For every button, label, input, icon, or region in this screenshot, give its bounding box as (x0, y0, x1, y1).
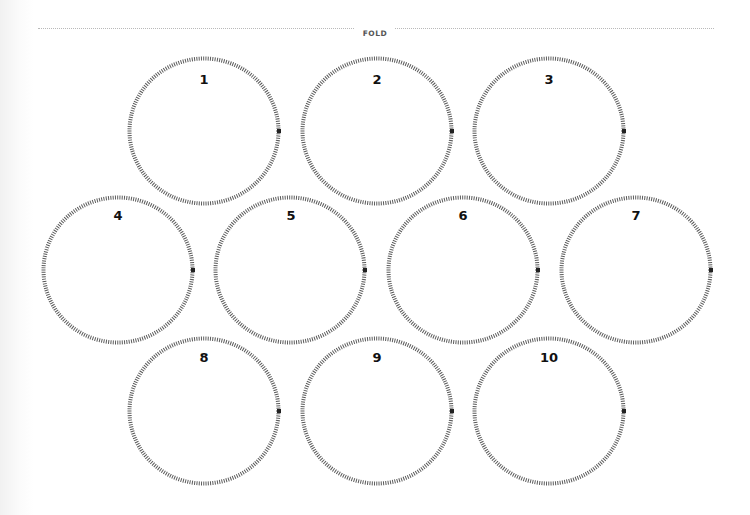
circle-number: 5 (286, 208, 295, 223)
marker-tick (277, 129, 281, 133)
circle-number: 7 (631, 208, 640, 223)
marker-tick (622, 129, 626, 133)
circle-7: 7 (562, 198, 714, 343)
circle-sheet: 1 2 3 4 5 6 7 8 9 (0, 0, 750, 515)
marker-tick (363, 268, 367, 272)
circle-number: 4 (113, 208, 122, 223)
marker-tick (450, 409, 454, 413)
circle-9: 9 (303, 339, 455, 484)
marker-tick (450, 129, 454, 133)
circle-number: 1 (199, 72, 208, 87)
circle-1: 1 (130, 59, 282, 204)
circle-number: 9 (372, 350, 381, 365)
circle-4: 4 (44, 198, 196, 343)
circle-number: 8 (199, 350, 208, 365)
circle-number: 6 (458, 208, 467, 223)
circle-8: 8 (130, 339, 282, 484)
circle-2: 2 (303, 59, 455, 204)
circle-number: 2 (372, 72, 381, 87)
circle-3: 3 (475, 59, 627, 204)
circle-number: 3 (544, 72, 553, 87)
circle-10: 10 (475, 339, 627, 484)
circle-number: 10 (540, 350, 558, 365)
marker-tick (191, 268, 195, 272)
circle-6: 6 (389, 198, 541, 343)
marker-tick (536, 268, 540, 272)
marker-tick (277, 409, 281, 413)
marker-tick (709, 268, 713, 272)
circle-5: 5 (216, 198, 368, 343)
marker-tick (622, 409, 626, 413)
